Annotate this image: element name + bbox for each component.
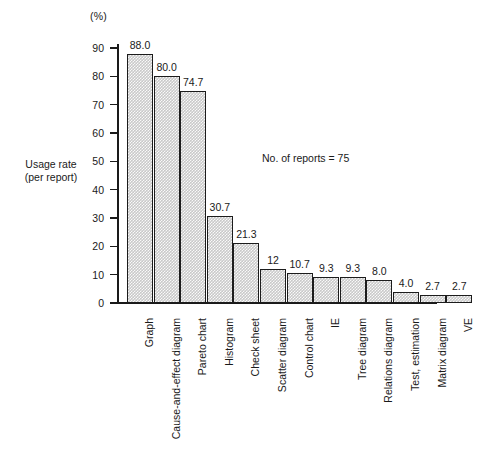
x-axis-category-label: Relations diagram [383,318,394,403]
x-axis-category-label: Matrix diagram [437,318,448,387]
bar [233,243,259,303]
bar [340,277,366,303]
bar-value-label: 2.7 [439,281,477,292]
bar [154,76,180,303]
x-axis-category-label: Histogram [224,318,235,366]
bar [260,269,286,303]
bar-value-label: 74.7 [173,77,213,88]
bar [287,273,313,303]
x-axis-category-label: Pareto chart [197,318,208,375]
x-axis-category-label: Test, estimation [410,318,421,391]
x-axis-category-label: Tree diagram [357,318,368,380]
x-axis-category-label: Control chart [304,318,315,378]
bar-value-label: 80.0 [147,62,187,73]
x-axis-category-label: IE [330,318,341,328]
x-axis-category-label: Scatter diagram [277,318,288,392]
bar-value-label: 88.0 [120,40,160,51]
x-axis-category-label: Check sheet [250,318,261,376]
x-axis-category-label: Graph [144,318,155,347]
bar-value-label: 30.7 [200,202,240,213]
bar-value-label: 8.0 [359,266,399,277]
x-axis-category-label: VE [463,318,474,332]
x-axis-category-label: Cause-and-effect diagram [171,318,182,439]
bar-value-label: 21.3 [226,229,266,240]
bar [393,292,419,303]
bar [420,295,446,303]
bar [446,295,472,303]
bar [127,54,153,303]
bar [180,91,206,303]
bar [313,277,339,303]
